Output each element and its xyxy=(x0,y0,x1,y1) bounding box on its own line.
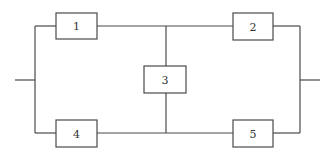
component-3-label: 3 xyxy=(162,74,169,87)
component-5: 5 xyxy=(233,120,273,147)
component-3: 3 xyxy=(144,66,186,93)
component-4-label: 4 xyxy=(73,128,80,141)
component-1: 1 xyxy=(56,13,97,39)
component-2-label: 2 xyxy=(250,21,257,34)
component-4: 4 xyxy=(56,120,97,147)
component-2: 2 xyxy=(233,13,273,40)
bridge-diagram: 1 2 3 4 5 xyxy=(0,0,332,157)
component-1-label: 1 xyxy=(73,20,80,33)
component-5-label: 5 xyxy=(250,128,257,141)
